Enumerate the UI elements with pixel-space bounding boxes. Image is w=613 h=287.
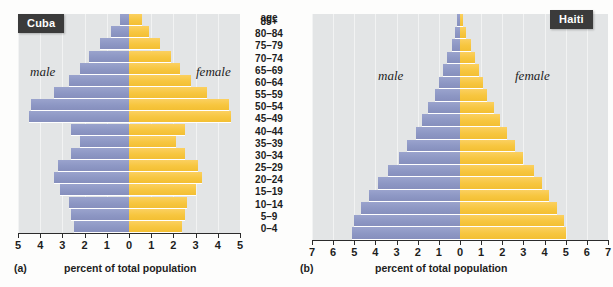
bar-male [378,177,460,190]
bar-female [460,190,549,203]
bar-male [443,64,460,77]
bar-female [460,127,507,140]
age-group-label: 25–29 [245,163,293,173]
axis-tick [397,240,398,245]
axis-tick-label: 4 [365,246,385,258]
axis-tick [545,240,546,245]
age-group-label: 40–44 [245,127,293,137]
axis-tick-label: 6 [577,246,597,258]
axis-tick [608,240,609,245]
bar-row [312,52,608,65]
axis-tick [85,233,86,238]
axis-tick [312,240,313,245]
bar-rows-haiti [312,14,608,240]
plot-area-cuba [18,14,240,233]
bar-male [388,165,460,178]
bar-male [435,89,460,102]
bar-male [100,38,129,50]
bar-male [80,136,129,148]
age-group-label: 45–49 [245,114,293,124]
bar-female [129,99,229,111]
bar-male [74,221,130,233]
x-axis-haiti: 765432101234567 [312,240,608,241]
bar-female [129,38,160,50]
age-group-label: 35–39 [245,139,293,149]
age-group-label: 10–14 [245,200,293,210]
axis-tick-label: 3 [186,239,206,251]
bar-female [460,152,523,165]
legend-label-female-cuba: female [196,64,231,80]
bar-male [120,14,129,26]
bar-female [129,87,207,99]
bar-female [129,63,180,75]
axis-tick-label: 3 [387,246,407,258]
bar-male [71,209,129,221]
bar-row [312,140,608,153]
bar-female [460,52,475,65]
bar-row [312,215,608,228]
bar-female [129,51,171,63]
bar-female [460,77,483,90]
bar-male [354,215,460,228]
bar-row [18,221,240,233]
bar-male [352,227,460,240]
bar-row [312,227,608,240]
bar-row [312,64,608,77]
axis-tick-label: 2 [408,246,428,258]
bar-male [361,202,460,215]
bar-male [71,124,129,136]
axis-tick [481,240,482,245]
axis-tick [333,240,334,245]
bar-male [447,52,460,65]
chart-title-cuba: Cuba [18,14,64,33]
bar-female [129,136,176,148]
bar-female [460,177,542,190]
axis-tick-label: 2 [492,246,512,258]
bar-row [312,190,608,203]
x-axis-label-haiti: percent of total population [375,262,507,274]
bar-row [18,111,240,123]
bar-female [129,184,196,196]
age-group-label: 0–4 [245,224,293,234]
axis-tick-label: 4 [535,246,555,258]
axis-tick-label: 1 [429,246,449,258]
axis-tick-label: 1 [471,246,491,258]
bar-row [312,152,608,165]
bar-female [460,165,534,178]
bar-row [312,77,608,90]
bar-male [89,51,129,63]
axis-tick [439,240,440,245]
axis-tick-label: 5 [344,246,364,258]
axis-tick [502,240,503,245]
bar-male [69,197,129,209]
bar-row [312,177,608,190]
bar-female [460,102,494,115]
bar-male [452,39,460,52]
axis-tick [173,233,174,238]
bar-male [416,127,460,140]
bar-female [460,14,463,27]
bar-rows-cuba [18,14,240,233]
axis-tick [523,240,524,245]
bar-row [18,209,240,221]
age-group-label: 55–59 [245,90,293,100]
bar-row [312,114,608,127]
axis-tick-label: 2 [75,239,95,251]
bar-female [460,202,557,215]
age-group-labels: age 85+80–8475–7970–7465–6960–6455–5950–… [245,12,293,24]
axis-tick-label: 7 [302,246,322,258]
axis-tick-label: 5 [556,246,576,258]
age-group-label: 20–24 [245,175,293,185]
age-group-label: 75–79 [245,41,293,51]
panel-tag-a: (a) [14,262,27,274]
axis-tick [218,233,219,238]
bar-male [369,190,460,203]
axis-tick [587,240,588,245]
bar-male [54,87,129,99]
bar-row [18,38,240,50]
bar-male [407,140,460,153]
legend-label-female-haiti: female [515,68,550,84]
bar-female [129,221,182,233]
bar-female [129,14,142,26]
bar-female [460,114,500,127]
